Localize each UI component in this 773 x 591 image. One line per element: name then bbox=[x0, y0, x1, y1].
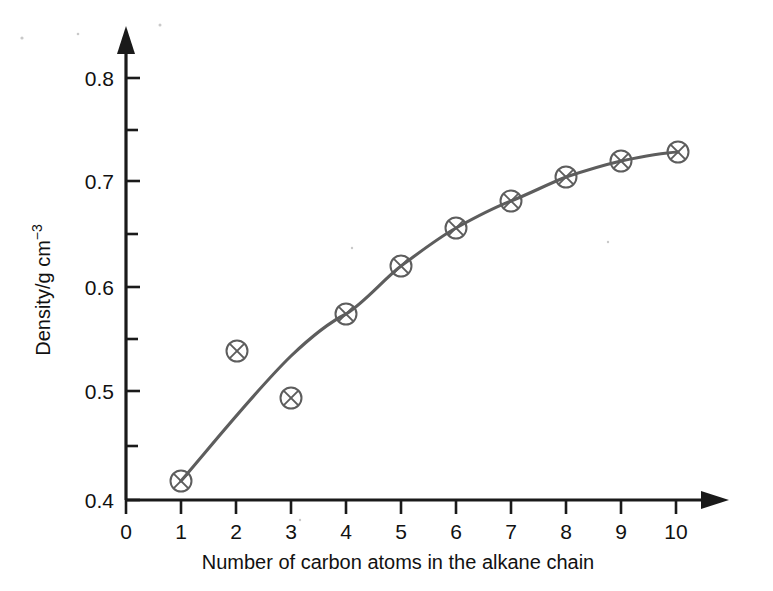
x-axis-arrowhead bbox=[701, 491, 729, 509]
y-tick-label-0.6: 0.6 bbox=[85, 276, 114, 299]
y-axis-title-exponent: −3 bbox=[29, 224, 45, 240]
x-axis: 0 1 2 3 4 5 6 7 8 9 10 Number of carbon … bbox=[120, 491, 729, 573]
y-tick-label-0.7: 0.7 bbox=[85, 170, 114, 193]
x-tick-label-0: 0 bbox=[120, 520, 132, 543]
x-tick-label-10: 10 bbox=[664, 520, 687, 543]
x-tick-label-7: 7 bbox=[505, 520, 517, 543]
y-tick-label-0.4: 0.4 bbox=[85, 489, 115, 512]
chart-figure: 0.8 0.7 0.6 0.5 0.4 Density/g cm−3 bbox=[0, 0, 773, 591]
data-point-8 bbox=[556, 167, 577, 188]
y-tick-label-0.5: 0.5 bbox=[85, 380, 114, 403]
x-tick-label-9: 9 bbox=[615, 520, 627, 543]
data-point-3 bbox=[281, 388, 302, 409]
density-vs-carbon-atoms-chart: 0.8 0.7 0.6 0.5 0.4 Density/g cm−3 bbox=[0, 0, 773, 591]
y-axis-arrowhead bbox=[117, 26, 135, 54]
data-points bbox=[171, 142, 689, 492]
x-tick-label-1: 1 bbox=[175, 520, 187, 543]
y-tick-label-0.8: 0.8 bbox=[85, 67, 114, 90]
x-tick-label-8: 8 bbox=[560, 520, 572, 543]
svg-text:Density/g cm−3: Density/g cm−3 bbox=[29, 224, 54, 356]
x-axis-title: Number of carbon atoms in the alkane cha… bbox=[202, 551, 594, 573]
x-tick-label-6: 6 bbox=[450, 520, 462, 543]
y-axis-title: Density/g cm−3 bbox=[29, 224, 54, 356]
x-tick-label-5: 5 bbox=[395, 520, 407, 543]
scan-artifacts bbox=[20, 24, 609, 522]
data-point-4 bbox=[336, 304, 357, 325]
line-of-best-fit bbox=[181, 152, 678, 481]
x-tick-label-4: 4 bbox=[340, 520, 352, 543]
data-point-5 bbox=[391, 256, 412, 277]
data-point-1 bbox=[171, 471, 192, 492]
x-tick-label-2: 2 bbox=[230, 520, 242, 543]
y-axis: 0.8 0.7 0.6 0.5 0.4 Density/g cm−3 bbox=[29, 26, 140, 512]
data-point-2 bbox=[227, 341, 248, 362]
y-axis-title-text: Density/g cm bbox=[32, 240, 54, 356]
data-point-7 bbox=[501, 191, 522, 212]
data-point-6 bbox=[446, 218, 467, 239]
x-tick-label-3: 3 bbox=[285, 520, 297, 543]
